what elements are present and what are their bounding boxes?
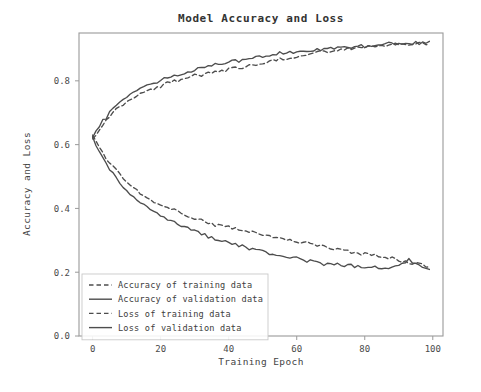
chart-legend: Accuracy of training dataAccuracy of val… <box>82 274 268 340</box>
y-tick-label: 0.0 <box>54 331 70 341</box>
y-tick-label: 0.4 <box>54 204 70 214</box>
legend-label-1: Accuracy of validation data <box>118 294 263 304</box>
x-tick-label: 60 <box>291 344 302 354</box>
x-tick-label: 20 <box>155 344 166 354</box>
x-tick-label: 80 <box>359 344 370 354</box>
y-tick-label: 0.8 <box>54 76 70 86</box>
model-accuracy-and-loss-chart: Model Accuracy and Loss 020406080100 0.0… <box>0 0 481 392</box>
legend-label-0: Accuracy of training data <box>118 280 252 290</box>
chart-title: Model Accuracy and Loss <box>178 12 344 25</box>
x-axis-label: Training Epoch <box>218 356 304 367</box>
y-tick-label: 0.6 <box>54 140 70 150</box>
y-axis-label: Accuracy and Loss <box>21 132 32 236</box>
x-tick-label: 40 <box>223 344 234 354</box>
x-tick-label: 100 <box>425 344 441 354</box>
x-tick-label: 0 <box>90 344 95 354</box>
y-tick-label: 0.2 <box>54 268 70 278</box>
chart-figure: Model Accuracy and Loss 020406080100 0.0… <box>0 0 481 392</box>
legend-label-3: Loss of validation data <box>118 323 242 333</box>
legend-label-2: Loss of training data <box>118 309 231 319</box>
